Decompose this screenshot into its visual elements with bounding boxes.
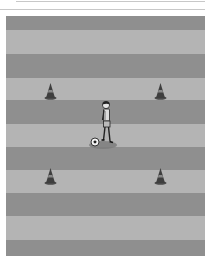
pitch-stripe-light — [6, 30, 205, 54]
cone-top-left — [44, 83, 57, 100]
top-rule — [16, 1, 205, 2]
cone-bottom-left — [44, 168, 57, 185]
pitch-stripe-dark — [6, 193, 205, 216]
pitch-stripe-light — [6, 170, 205, 193]
cone-icon — [44, 83, 57, 100]
pitch-stripe-dark — [6, 16, 205, 30]
pitch-stripe-dark — [6, 54, 205, 78]
pitch-stripe-dark — [6, 147, 205, 170]
player-with-ball — [86, 100, 120, 150]
pitch-stripe-light — [6, 78, 205, 100]
cone-icon — [154, 83, 167, 100]
cone-icon — [44, 168, 57, 185]
pitch-stripe-light — [6, 216, 205, 240]
pitch-stripe-dark — [6, 240, 205, 256]
cone-icon — [154, 168, 167, 185]
cone-top-right — [154, 83, 167, 100]
player-icon — [86, 100, 120, 150]
header-rule — [0, 9, 205, 10]
cone-bottom-right — [154, 168, 167, 185]
